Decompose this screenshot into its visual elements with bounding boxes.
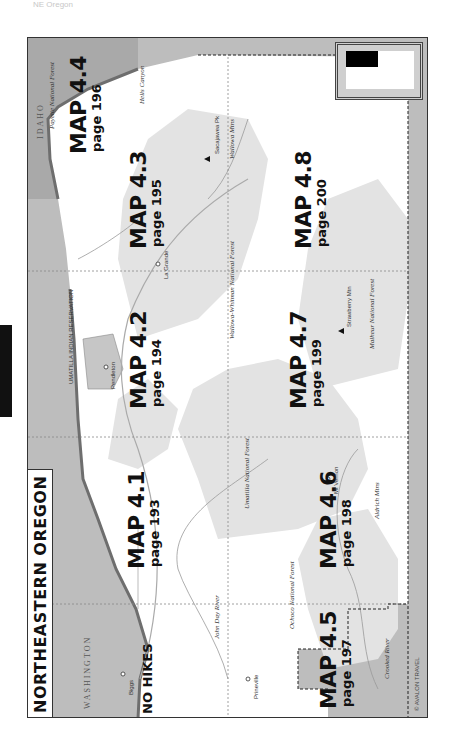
wallowa-mtns-label: Wallowa Mtns [228, 119, 236, 159]
town-biggs: Biggs [128, 680, 134, 695]
town-prineville: Prineville [253, 675, 259, 699]
map-4-7-page[interactable]: page 199 [310, 339, 323, 407]
map-title-box: NORTHEASTERN OREGON [28, 469, 53, 718]
idaho-label: IDAHO [36, 103, 45, 139]
locator-inset-map [338, 45, 420, 97]
ochoco-forest-label: Ochoco National Forest [288, 561, 296, 629]
washington-label: WASHINGTON [83, 636, 92, 709]
map-4-2-label[interactable]: MAP 4.2 [128, 311, 150, 409]
map-4-2-page[interactable]: page 194 [150, 339, 163, 407]
map-4-1-page[interactable]: page 193 [148, 499, 161, 567]
malheur-forest-label: Malheur National Forest [368, 279, 376, 349]
map-4-5-page[interactable]: page 197 [340, 639, 353, 707]
page-header: NE Oregon [33, 0, 73, 9]
no-hikes-label: NO HIKES [140, 644, 155, 715]
map-4-8-label[interactable]: MAP 4.8 [293, 151, 315, 249]
town-la-grande: La Grande [163, 251, 169, 279]
hells-canyon-label: Hells Canyon [138, 66, 146, 104]
map-4-8-page[interactable]: page 200 [315, 179, 328, 247]
reservation-label: UMATILLA INDIAN RESERVATION [68, 290, 74, 384]
sacajawea-label: Sacajawea Pk [214, 116, 220, 154]
map-4-1-label[interactable]: MAP 4.1 [126, 471, 148, 569]
map-4-3-page[interactable]: page 195 [150, 179, 163, 247]
map-4-5-label[interactable]: MAP 4.5 [318, 611, 340, 709]
map-4-4-page[interactable]: page 196 [90, 84, 103, 152]
town-pendleton: Pendleton [110, 362, 116, 389]
wallowa-forest-label: Wallowa-Whitman National Forest [228, 241, 236, 339]
chapter-tab [0, 325, 12, 417]
copyright: © AVALON TRAVEL [414, 657, 420, 711]
john-day-river-label: John Day River [213, 595, 221, 639]
map-4-4-label[interactable]: MAP 4.4 [68, 56, 90, 154]
map-frame: MAP 4.1 page 193 MAP 4.2 page 194 MAP 4.… [27, 37, 428, 718]
umatilla-forest-label: Umatilla National Forest [243, 438, 251, 509]
map-title: NORTHEASTERN OREGON [31, 476, 50, 713]
town-mt-vernon: Mt Vernon [333, 467, 339, 494]
map-4-3-label[interactable]: MAP 4.3 [128, 151, 150, 249]
map-4-7-label[interactable]: MAP 4.7 [288, 311, 310, 409]
map-canvas: MAP 4.1 page 193 MAP 4.2 page 194 MAP 4.… [28, 38, 428, 718]
strawberry-label: Strawberry Mtn [346, 286, 352, 327]
crooked-river-label: Crooked River [383, 638, 391, 679]
payette-forest-label: Payette National Forest [48, 62, 56, 129]
aldrich-mtns-label: Aldrich Mtns [373, 482, 381, 519]
map-4-6-page[interactable]: page 198 [340, 499, 353, 567]
locator-inset [335, 42, 423, 100]
